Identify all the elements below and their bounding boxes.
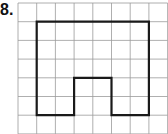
grid-figure (0, 0, 168, 134)
